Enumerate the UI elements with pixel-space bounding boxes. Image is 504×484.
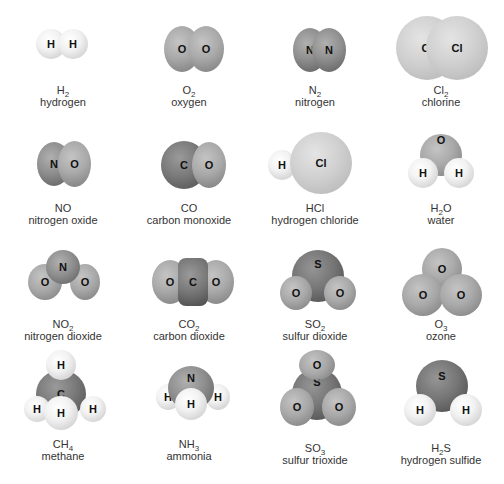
atom-o: O xyxy=(188,26,224,72)
molecule-so3: S O O O SO3 sulfur trioxide xyxy=(252,350,378,470)
molecule-hcl: H Cl HCl hydrogen chloride xyxy=(252,120,378,240)
atom-c: C xyxy=(178,258,208,306)
name-o3: ozone xyxy=(378,330,504,342)
molecule-no2: O O N NO2 nitrogen dioxide xyxy=(0,240,126,360)
model-so3: S O O O xyxy=(252,350,378,430)
name-h2s: hydrogen sulfide xyxy=(378,454,504,466)
name-no2: nitrogen dioxide xyxy=(0,330,126,342)
name-so2: sulfur dioxide xyxy=(252,330,378,342)
molecule-cl2: Cl Cl Cl2 chlorine xyxy=(378,0,504,120)
atom-h: H xyxy=(46,350,76,380)
atom-o: O xyxy=(402,274,444,316)
model-h2: H H xyxy=(0,0,126,80)
atom-h: H xyxy=(80,396,106,422)
model-n2: N N xyxy=(252,0,378,80)
name-h2: hydrogen xyxy=(0,96,126,108)
model-co: C O xyxy=(126,120,252,200)
name-cl2: chlorine xyxy=(378,96,504,108)
atom-n: N xyxy=(312,28,346,72)
model-cl2: Cl Cl xyxy=(378,0,504,80)
molecule-h2s: S H H H2S hydrogen sulfide xyxy=(378,350,504,470)
atom-h: H xyxy=(58,29,88,59)
atom-o: O xyxy=(58,141,91,187)
atom-o: O xyxy=(440,274,482,316)
model-h2s: S H H xyxy=(378,350,504,430)
model-ch4: C H H H H xyxy=(0,350,126,430)
atom-o: O xyxy=(280,276,312,310)
molecule-h2o: O H H H2O water xyxy=(378,120,504,240)
atom-o: O xyxy=(299,350,335,380)
name-h2o: water xyxy=(378,214,504,226)
name-co2: carbon dioxide xyxy=(126,330,252,342)
atom-o: O xyxy=(324,276,356,310)
atom-cl: Cl xyxy=(426,16,488,80)
molecule-ch4: C H H H H CH4 methane xyxy=(0,350,126,470)
molecule-co: C O CO carbon monoxide xyxy=(126,120,252,240)
name-so3: sulfur trioxide xyxy=(252,454,378,466)
name-ch4: methane xyxy=(0,450,126,462)
atom-cl: Cl xyxy=(290,132,352,194)
molecule-so2: S O O SO2 sulfur dioxide xyxy=(252,240,378,360)
model-nh3: H H N H xyxy=(126,350,252,430)
model-so2: S O O xyxy=(252,240,378,320)
molecule-nh3: H H N H NH3 ammonia xyxy=(126,350,252,470)
name-co: carbon monoxide xyxy=(126,214,252,226)
model-hcl: H Cl xyxy=(252,120,378,200)
molecule-n2: N N N2 nitrogen xyxy=(252,0,378,120)
atom-o: O xyxy=(322,388,356,426)
molecule-o3: O O O O3 ozone xyxy=(378,240,504,360)
model-o2: O O xyxy=(126,0,252,80)
name-no: nitrogen oxide xyxy=(0,214,126,226)
atom-h: H xyxy=(408,158,438,188)
molecule-no: N O NO nitrogen oxide xyxy=(0,120,126,240)
atom-h: H xyxy=(44,396,78,430)
atom-h: H xyxy=(444,158,474,188)
model-no: N O xyxy=(0,120,126,200)
model-h2o: O H H xyxy=(378,120,504,200)
molecule-h2: H H H2 hydrogen xyxy=(0,0,126,120)
molecule-o2: O O O2 oxygen xyxy=(126,0,252,120)
atom-o: O xyxy=(192,142,226,188)
model-no2: O O N xyxy=(0,240,126,320)
name-n2: nitrogen xyxy=(252,96,378,108)
atom-o: O xyxy=(280,388,314,426)
model-o3: O O O xyxy=(378,240,504,320)
atom-n: N xyxy=(46,250,80,284)
name-hcl: hydrogen chloride xyxy=(252,214,378,226)
molecule-co2: O O C CO2 carbon dioxide xyxy=(126,240,252,360)
name-o2: oxygen xyxy=(126,96,252,108)
atom-h: H xyxy=(175,388,207,420)
model-co2: O O C xyxy=(126,240,252,320)
atom-h: H xyxy=(450,394,482,426)
name-nh3: ammonia xyxy=(126,450,252,462)
atom-h: H xyxy=(404,394,436,426)
